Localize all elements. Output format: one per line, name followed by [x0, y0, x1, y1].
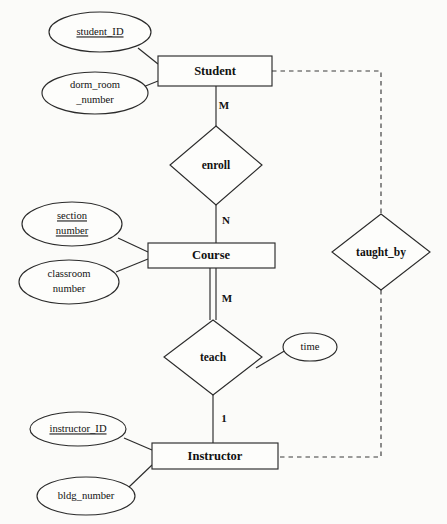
attribute-bldg-number-label: bldg_number: [58, 490, 115, 501]
er-diagram-svg: Student Course Instructor enroll teach t…: [0, 0, 447, 524]
attribute-classroom-number[interactable]: classroom number: [19, 260, 119, 304]
attribute-dorm-room-number-label-line1: dorm_room: [70, 79, 121, 90]
connector-course-classroom_number: [116, 259, 148, 272]
cardinality-teach-instructor: 1: [221, 412, 227, 424]
attribute-time[interactable]: time: [283, 333, 337, 361]
entity-instructor-label: Instructor: [188, 449, 243, 463]
relationship-enroll[interactable]: enroll: [170, 126, 262, 205]
attribute-instructor-id-label: instructor_ID: [49, 423, 106, 434]
attribute-classroom-number-ellipse: [19, 260, 119, 304]
connector-teach-time: [256, 350, 286, 368]
relationship-teach-label: teach: [200, 351, 227, 363]
cardinality-enroll-course: N: [222, 214, 230, 226]
entity-student[interactable]: Student: [158, 56, 272, 86]
connector-instructor-instructor_id: [124, 438, 152, 450]
attribute-student-id[interactable]: student_ID: [49, 12, 151, 52]
entity-course[interactable]: Course: [148, 243, 275, 268]
relationship-teach[interactable]: teach: [164, 320, 262, 395]
attribute-dorm-room-number[interactable]: dorm_room _number: [42, 72, 148, 114]
attribute-classroom-number-label-line2: number: [53, 283, 86, 294]
entity-student-label: Student: [194, 64, 237, 78]
attribute-time-label: time: [301, 341, 320, 352]
relationship-taught-by[interactable]: taught_by: [332, 214, 430, 290]
attribute-section-number[interactable]: section number: [22, 202, 122, 246]
cardinality-course-teach: M: [222, 292, 233, 304]
entity-course-label: Course: [192, 248, 231, 262]
connector-course-section_number: [118, 238, 148, 252]
connector-student-taught_by: [272, 71, 381, 214]
cardinality-student-enroll: M: [219, 99, 230, 111]
attribute-dorm-room-number-ellipse: [42, 72, 148, 114]
attribute-bldg-number[interactable]: bldg_number: [37, 477, 135, 515]
attribute-classroom-number-label-line1: classroom: [48, 268, 92, 279]
attribute-section-number-label-line1: section: [57, 210, 88, 221]
entity-instructor[interactable]: Instructor: [152, 443, 278, 469]
attribute-section-number-ellipse: [22, 202, 122, 246]
attribute-instructor-id[interactable]: instructor_ID: [30, 412, 126, 446]
connector-instructor-bldg_number: [129, 465, 152, 487]
attribute-section-number-label-line2: number: [56, 225, 89, 236]
attribute-dorm-room-number-label-line2: _number: [75, 94, 114, 105]
connector-taught_by-instructor: [278, 290, 381, 457]
attribute-student-id-label: student_ID: [76, 26, 123, 37]
relationship-enroll-label: enroll: [202, 159, 231, 171]
relationship-taught-by-label: taught_by: [356, 246, 406, 259]
connector-student-student_id: [138, 48, 158, 64]
er-diagram-canvas: Student Course Instructor enroll teach t…: [0, 0, 447, 524]
